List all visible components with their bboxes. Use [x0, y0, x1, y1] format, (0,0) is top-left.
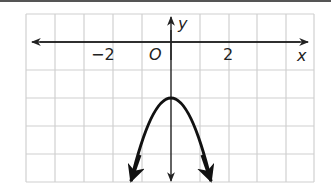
x-tick-label-neg2: −2	[91, 45, 115, 64]
coordinate-plane: −2 O 2 x y	[0, 0, 331, 187]
x-axis-label: x	[296, 46, 307, 65]
origin-label: O	[149, 45, 162, 64]
y-axis-label: y	[177, 14, 188, 33]
x-tick-label-2: 2	[223, 45, 233, 64]
